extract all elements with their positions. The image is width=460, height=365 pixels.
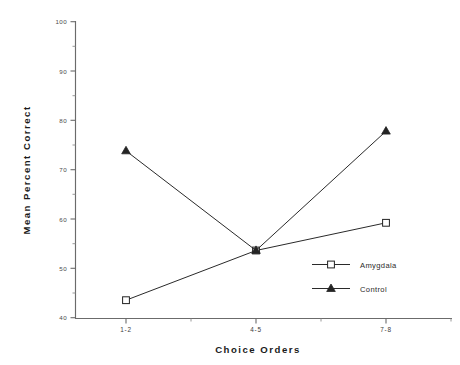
x-tick-label-7-8: 7-8	[380, 326, 392, 333]
y-axis-title: Mean Percent Correct	[21, 105, 32, 234]
x-tick-label-4-5: 4-5	[250, 326, 262, 333]
y-tick-label-50: 50	[59, 265, 67, 272]
chart-background	[0, 0, 460, 365]
chart-figure: 100 90 80 70 60 50 40 1-2 4-5 7-8 Choice	[0, 0, 460, 365]
legend-label-control: Control	[360, 285, 387, 294]
y-tick-label-80: 80	[59, 117, 67, 124]
x-tick-label-1-2: 1-2	[120, 326, 132, 333]
y-tick-label-40: 40	[59, 314, 67, 321]
amygdala-marker-7-8	[383, 219, 390, 226]
line-chart-canvas: 100 90 80 70 60 50 40 1-2 4-5 7-8 Choice	[0, 0, 460, 365]
y-tick-label-100: 100	[55, 18, 67, 25]
y-tick-label-90: 90	[59, 68, 67, 75]
legend-label-amygdala: Amygdala	[360, 261, 397, 270]
y-tick-label-60: 60	[59, 216, 67, 223]
legend-marker-open-square-icon	[328, 261, 335, 268]
amygdala-marker-1-2	[123, 297, 130, 304]
y-tick-label-70: 70	[59, 166, 67, 173]
x-axis-title: Choice Orders	[215, 344, 301, 355]
